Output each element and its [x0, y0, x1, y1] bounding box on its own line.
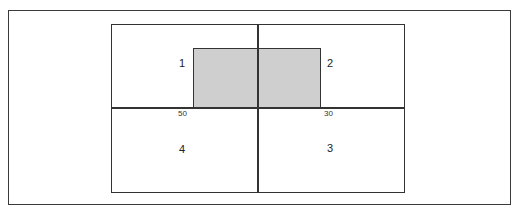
edge-label-right: 30 [324, 110, 333, 118]
quadrant-label-2: 2 [327, 58, 333, 69]
quadrant-label-1: 1 [179, 58, 185, 69]
vertical-divider [257, 24, 259, 193]
horizontal-divider [111, 107, 405, 109]
edge-label-left: 50 [178, 110, 187, 118]
quadrant-label-3: 3 [327, 143, 333, 154]
quadrant-label-4: 4 [179, 144, 185, 155]
